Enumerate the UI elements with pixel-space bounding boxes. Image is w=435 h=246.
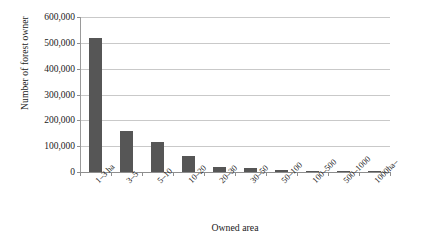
x-tick-mark xyxy=(142,172,143,176)
y-tick-label: 0 xyxy=(70,167,75,177)
y-axis-title: Number of forest owner xyxy=(20,0,30,148)
gridline xyxy=(80,69,390,70)
plot-area: 0100,000200,000300,000400,000500,000600,… xyxy=(80,17,390,172)
y-tick-label: 500,000 xyxy=(44,38,75,48)
bar xyxy=(120,131,133,172)
y-tick-label: 100,000 xyxy=(44,141,75,151)
y-tick-label: 200,000 xyxy=(44,115,75,125)
bar-chart-figure: Number of forest owner 0100,000200,00030… xyxy=(0,0,435,246)
x-tick-label: 500–1000 xyxy=(341,154,372,185)
x-tick-mark xyxy=(80,172,81,176)
gridline xyxy=(80,120,390,121)
gridline xyxy=(80,95,390,96)
gridline xyxy=(80,43,390,44)
y-tick-label: 300,000 xyxy=(44,90,75,100)
bar xyxy=(151,142,164,172)
gridline xyxy=(80,17,390,18)
x-axis-title: Owned area xyxy=(80,222,390,233)
y-tick-label: 400,000 xyxy=(44,64,75,74)
y-tick-label: 600,000 xyxy=(44,12,75,22)
y-axis-line xyxy=(80,17,81,172)
bar xyxy=(89,38,102,172)
